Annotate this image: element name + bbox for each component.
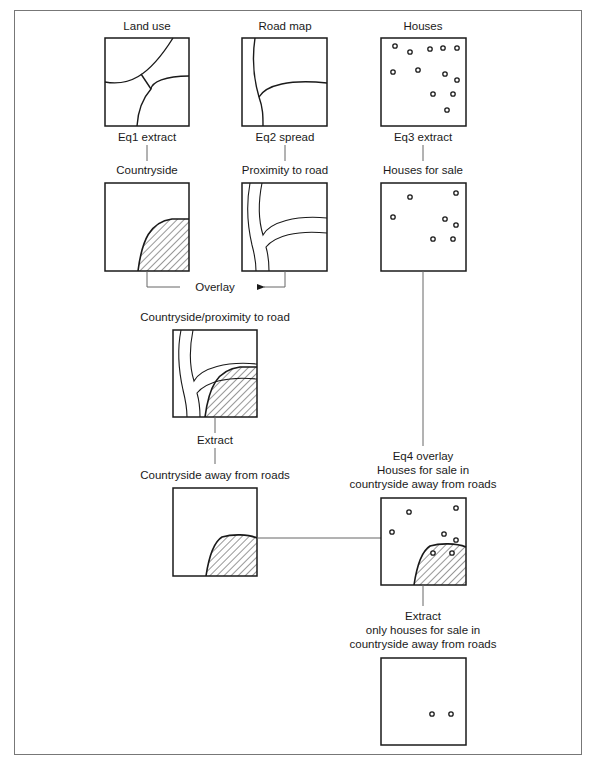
proximity-to-road-map: [242, 183, 327, 271]
eq3-extract-label: Eq3 extract: [394, 130, 452, 144]
countryside-title: Countryside: [116, 163, 177, 177]
eq4-overlay-map: [381, 498, 466, 585]
final-line2: only houses for sale in: [366, 623, 480, 637]
eq1-extract-label: Eq1 extract: [118, 130, 176, 144]
final-extract-label: Extract: [405, 609, 441, 623]
houses-map: [381, 38, 466, 126]
road-map-title: Road map: [258, 19, 311, 33]
eq4-line3: countryside away from roads: [349, 477, 496, 491]
final-result-map: [381, 658, 466, 745]
final-line3: countryside away from roads: [349, 637, 496, 651]
land-use-title: Land use: [123, 19, 170, 33]
eq2-spread-label: Eq2 spread: [256, 130, 315, 144]
diagram-canvas: [0, 0, 598, 765]
houses-for-sale-title: Houses for sale: [383, 163, 463, 177]
houses-for-sale-map: [381, 183, 466, 271]
top-connectors: [147, 145, 423, 161]
countryside-away-map: [173, 488, 257, 576]
overlay-label: Overlay: [195, 280, 235, 294]
eq4-overlay-label: Eq4 overlay: [393, 449, 454, 463]
land-use-map: [105, 38, 189, 126]
countryside-map: [105, 183, 189, 271]
proximity-to-road-title: Proximity to road: [242, 163, 328, 177]
eq4-line2: Houses for sale in: [377, 463, 469, 477]
extract-label: Extract: [197, 433, 233, 447]
combined-title: Countryside/proximity to road: [140, 310, 290, 324]
road-map: [242, 38, 327, 126]
combined-map: [173, 330, 257, 417]
countryside-away-title: Countryside away from roads: [140, 468, 290, 482]
houses-title: Houses: [404, 19, 443, 33]
